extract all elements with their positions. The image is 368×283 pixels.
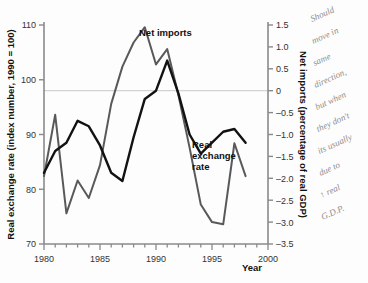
real-exchange-rate-label-line: exchange bbox=[192, 150, 236, 161]
left-axis-tick-label: 80 bbox=[26, 185, 36, 195]
right-axis-tick-label: –2.0 bbox=[276, 174, 294, 184]
right-axis-tick-label: –1.0 bbox=[276, 130, 294, 140]
right-axis-tick-label: –0.5 bbox=[276, 108, 294, 118]
right-axis-tick-label: 0 bbox=[276, 86, 281, 96]
handwritten-note-line: due to bbox=[317, 159, 342, 177]
x-axis-tick-label: 1980 bbox=[34, 254, 54, 264]
right-axis-tick-label: 1.5 bbox=[276, 20, 289, 30]
chart-figure: 7080901001101.51.00.50–0.5–1.0–1.5–2.0–2… bbox=[0, 0, 368, 283]
x-axis-tick-label: 1985 bbox=[90, 254, 110, 264]
real-exchange-rate-label-line: Real bbox=[192, 139, 212, 150]
right-axis-tick-label: 1.0 bbox=[276, 42, 289, 52]
left-axis-tick-label: 70 bbox=[26, 239, 36, 249]
left-axis-tick-label: 110 bbox=[22, 20, 36, 30]
handwritten-note-line: but when bbox=[314, 89, 348, 112]
handwritten-note-line: ↑ real bbox=[318, 182, 342, 200]
line-chart: 7080901001101.51.00.50–0.5–1.0–1.5–2.0–2… bbox=[0, 0, 368, 283]
left-axis-tick-label: 100 bbox=[21, 75, 36, 85]
handwritten-note-line: move in bbox=[310, 25, 340, 46]
x-axis-tick-label: 1995 bbox=[202, 254, 222, 264]
right-axis-tick-label: 0.5 bbox=[276, 64, 289, 74]
handwritten-note-line: its usually bbox=[316, 132, 354, 156]
right-axis-tick-label: –2.5 bbox=[276, 196, 294, 206]
right-axis-title: Net imports (percentage of real GDP) bbox=[298, 51, 309, 218]
x-axis-tick-label: 1990 bbox=[146, 254, 166, 264]
real-exchange-rate-label-line: rate bbox=[192, 161, 209, 172]
x-axis-title: Year bbox=[242, 262, 262, 273]
right-axis-tick-label: –1.5 bbox=[276, 152, 294, 162]
handwritten-note-line: same bbox=[311, 51, 332, 68]
handwritten-note-line: they don't bbox=[315, 110, 352, 134]
net-imports-label: Net imports bbox=[139, 27, 192, 38]
handwritten-note-line: G.D.P. bbox=[320, 203, 346, 222]
right-axis-tick-label: –3.5 bbox=[276, 239, 294, 249]
handwritten-note-line: Should bbox=[309, 4, 336, 24]
handwritten-note-line: direction, bbox=[312, 67, 348, 90]
left-axis-tick-label: 90 bbox=[26, 130, 36, 140]
series-line-real-exchange-rate bbox=[44, 61, 246, 181]
left-axis-title: Real exchange rate (index number, 1990 =… bbox=[5, 29, 16, 239]
right-axis-tick-label: –3.0 bbox=[276, 218, 294, 228]
